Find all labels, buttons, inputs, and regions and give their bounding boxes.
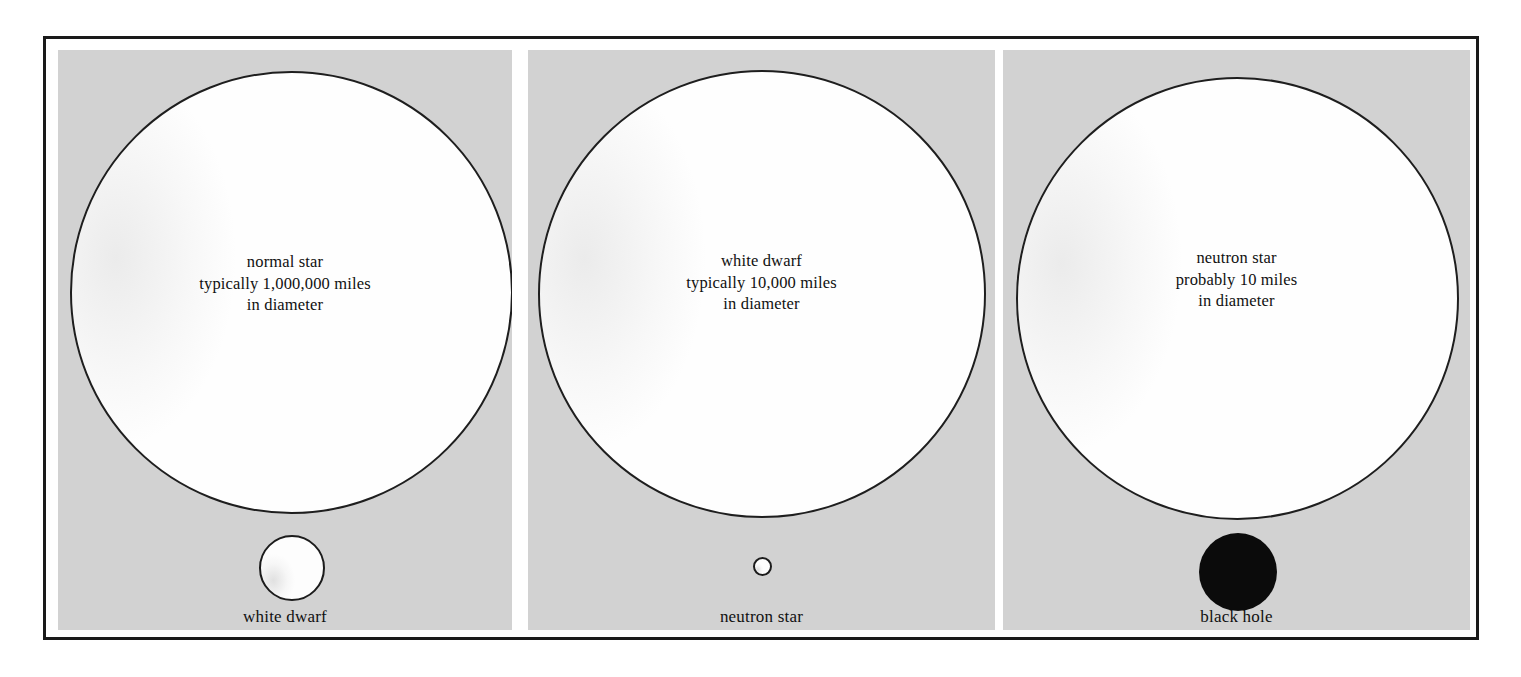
white-dwarf-caption-line-1: white dwarf <box>528 250 995 272</box>
white-dwarf-label: white dwarf <box>58 607 512 627</box>
normal-star-caption: normal star typically 1,000,000 miles in… <box>58 251 512 316</box>
normal-star-caption-line-3: in diameter <box>58 294 512 316</box>
panel-normal-star: normal star typically 1,000,000 miles in… <box>58 50 512 630</box>
panel-divider-gap-1 <box>512 50 528 630</box>
neutron-star-caption: neutron star probably 10 miles in diamet… <box>1003 247 1470 312</box>
neutron-star-caption-line-2: probably 10 miles <box>1003 269 1470 291</box>
neutron-star-circle <box>753 557 772 576</box>
panel-divider-gap-2 <box>995 50 1003 630</box>
black-hole-label: black hole <box>1003 607 1470 627</box>
normal-star-caption-line-1: normal star <box>58 251 512 273</box>
neutron-star-label: neutron star <box>528 607 995 627</box>
normal-star-caption-line-2: typically 1,000,000 miles <box>58 273 512 295</box>
panel-row: normal star typically 1,000,000 miles in… <box>58 50 1470 630</box>
black-hole-circle <box>1199 533 1277 611</box>
white-dwarf-circle <box>259 535 325 601</box>
panel-neutron-star: neutron star probably 10 miles in diamet… <box>1003 50 1470 630</box>
neutron-star-caption-line-1: neutron star <box>1003 247 1470 269</box>
neutron-star-caption-line-3: in diameter <box>1003 290 1470 312</box>
white-dwarf-caption-line-2: typically 10,000 miles <box>528 272 995 294</box>
white-dwarf-caption-line-3: in diameter <box>528 293 995 315</box>
white-dwarf-caption: white dwarf typically 10,000 miles in di… <box>528 250 995 315</box>
panel-white-dwarf: white dwarf typically 10,000 miles in di… <box>528 50 995 630</box>
